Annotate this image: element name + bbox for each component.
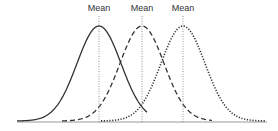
mean-label-3: Mean [172, 3, 195, 13]
normal-distribution-chart: Mean Mean Mean [0, 0, 278, 131]
mean-label-2: Mean [131, 3, 154, 13]
dashed-curve [62, 26, 212, 121]
solid-curve [17, 26, 147, 121]
mean-label-1: Mean [88, 3, 111, 13]
